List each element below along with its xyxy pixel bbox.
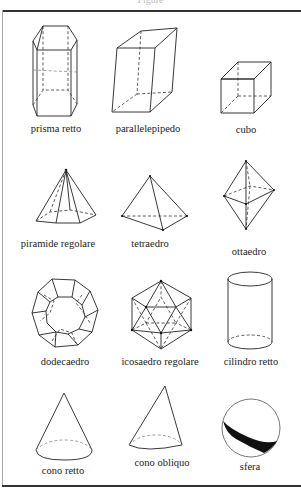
prisma-retto-label: prisma retto bbox=[31, 123, 81, 134]
icosaedro-regolare-drawing bbox=[130, 279, 196, 351]
frame-left-rule bbox=[2, 10, 3, 487]
dodecaedro-label: dodecaedro bbox=[41, 356, 89, 367]
cilindro-retto-label: cilindro retto bbox=[224, 356, 279, 367]
piramide-regolare-drawing bbox=[34, 168, 98, 228]
cono-obliquo-label: cono obliquo bbox=[134, 457, 189, 468]
dodecaedro-drawing bbox=[30, 277, 100, 349]
cono-retto-label: cono retto bbox=[42, 465, 84, 476]
cubo-drawing bbox=[220, 60, 272, 116]
icosaedro-regolare-label: icosaedro regolare bbox=[121, 356, 198, 367]
cubo-label: cubo bbox=[236, 124, 256, 135]
cilindro-retto-drawing bbox=[226, 270, 274, 352]
ottaedro-drawing bbox=[222, 159, 278, 231]
prisma-retto-drawing bbox=[25, 20, 85, 120]
page-header: Figure bbox=[0, 0, 301, 5]
parallelepipedo-label: parallelepipedo bbox=[116, 123, 181, 134]
tetraedro-label: tetraedro bbox=[131, 238, 168, 249]
tetraedro-drawing bbox=[120, 174, 190, 234]
frame-bottom-rule bbox=[2, 485, 301, 487]
sfera-label: sfera bbox=[240, 461, 260, 472]
frame-top-rule bbox=[2, 10, 301, 12]
ottaedro-label: ottaedro bbox=[232, 246, 266, 257]
sfera-drawing bbox=[220, 397, 282, 459]
cono-retto-drawing bbox=[34, 392, 94, 462]
cono-obliquo-drawing bbox=[127, 385, 185, 451]
piramide-regolare-label: piramide regolare bbox=[21, 238, 95, 249]
parallelepipedo-drawing bbox=[112, 28, 182, 108]
